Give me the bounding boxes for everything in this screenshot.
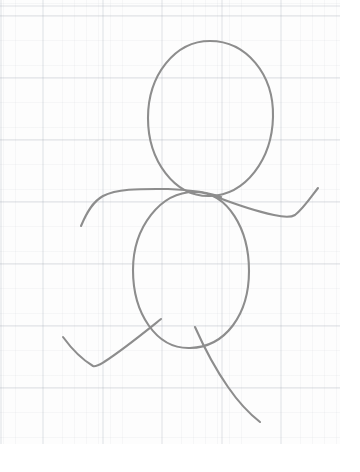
body-ellipse — [133, 192, 249, 348]
stick-figure-sketch — [0, 0, 360, 472]
sketch-canvas — [0, 0, 360, 472]
head-ellipse — [148, 41, 273, 196]
sketch-strokes — [63, 41, 318, 422]
left-leg — [63, 319, 161, 366]
right-leg — [195, 327, 260, 422]
